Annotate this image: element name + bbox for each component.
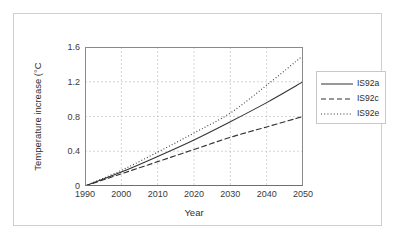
legend-label: IS92a [357,79,379,88]
x-tick-label: 2050 [293,190,313,199]
legend-item-is92a[interactable]: IS92a [321,76,382,91]
legend-item-is92e[interactable]: IS92e [321,106,382,121]
x-axis-title: Year [85,207,303,219]
legend-line-dashed-icon [321,95,353,103]
legend-item-is92c[interactable]: IS92c [321,91,382,106]
y-axis-tick-labels: 1.6 1.2 0.8 0.4 0 [52,47,80,186]
series-line-is92a [85,82,303,186]
x-tick-label: 2030 [220,190,240,199]
x-tick-label: 2040 [257,190,277,199]
gridlines [85,47,303,186]
legend-label: IS92c [357,94,379,103]
y-tick-label: 1.2 [67,77,80,86]
x-tick-label: 2020 [184,190,204,199]
legend-label: IS92e [357,109,379,118]
figure-frame: Temperature increase (°C 1.6 1.2 0.8 0.4… [13,13,382,226]
plot-area [85,47,303,186]
y-tick-label: 0.4 [67,147,80,156]
chart-legend: IS92a IS92c IS92e [316,71,386,124]
y-tick-label: 1.6 [67,43,80,52]
x-tick-label: 1990 [75,190,95,199]
x-tick-label: 2000 [111,190,131,199]
y-axis-title: Temperature increase (°C [30,47,45,186]
x-axis-tick-labels: 1990 2000 2010 2020 2030 2040 2050 [85,190,303,204]
chart-canvas [85,47,303,186]
legend-line-solid-icon [321,80,353,88]
legend-line-dotted-icon [321,110,353,118]
y-tick-label: 0.8 [67,112,80,121]
x-tick-label: 2010 [148,190,168,199]
